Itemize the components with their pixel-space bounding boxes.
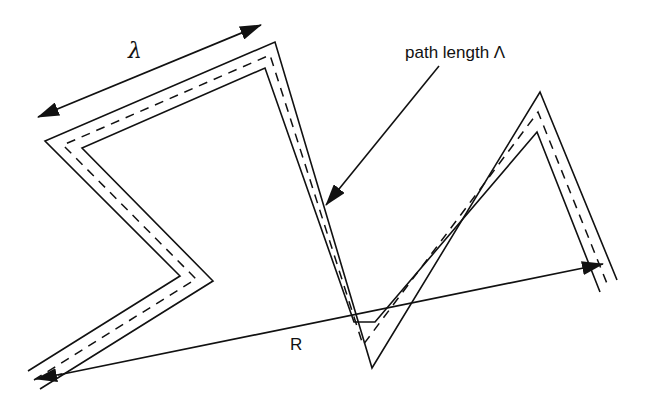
path-length-pointer-arrow: [326, 66, 439, 205]
random-walk-diagram: λ path length Λ R: [0, 0, 646, 405]
dashed-center-path: [34, 55, 608, 380]
lambda-label: λ: [127, 38, 142, 63]
tube-inner-wall: [40, 68, 600, 389]
end-to-end-vector-R: [58, 264, 603, 375]
R-label: R: [290, 335, 302, 354]
lambda-step-arrow: [38, 25, 261, 117]
path-length-label: path length Λ: [405, 43, 506, 62]
